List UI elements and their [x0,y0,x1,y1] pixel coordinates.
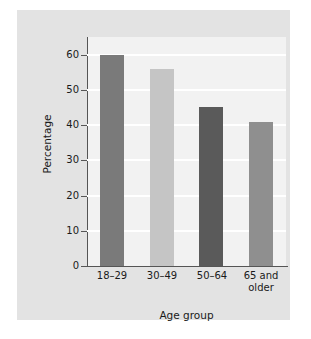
x-tick-label-line: 18–29 [87,270,137,282]
x-tick-label-line: older [236,282,286,294]
x-tick-label-line: 65 and [236,270,286,282]
y-tick-mark [81,266,87,267]
y-axis-title: Percentage [41,94,53,194]
x-tick-label-line: 50–64 [187,270,237,282]
x-tick-label: 65 andolder [236,270,286,294]
bar [199,107,223,266]
chart-panel: 0102030405060 18–2930–4950–6465 andolder… [17,10,290,320]
bar [150,69,174,266]
y-tick-label: 10 [39,226,79,236]
bar-series [87,37,286,266]
x-tick-label: 50–64 [187,270,237,282]
y-tick-label: 60 [39,50,79,60]
bar [249,122,273,266]
x-tick-label: 18–29 [87,270,137,282]
figure: 0102030405060 18–2930–4950–6465 andolder… [0,0,311,339]
x-tick-label-line: 30–49 [137,270,187,282]
x-tick-labels: 18–2930–4950–6465 andolder [87,270,286,310]
x-axis-line [87,266,288,267]
y-tick-label: 0 [39,261,79,271]
bar [100,55,124,266]
x-tick-label: 30–49 [137,270,187,282]
x-axis-title: Age group [87,309,286,321]
